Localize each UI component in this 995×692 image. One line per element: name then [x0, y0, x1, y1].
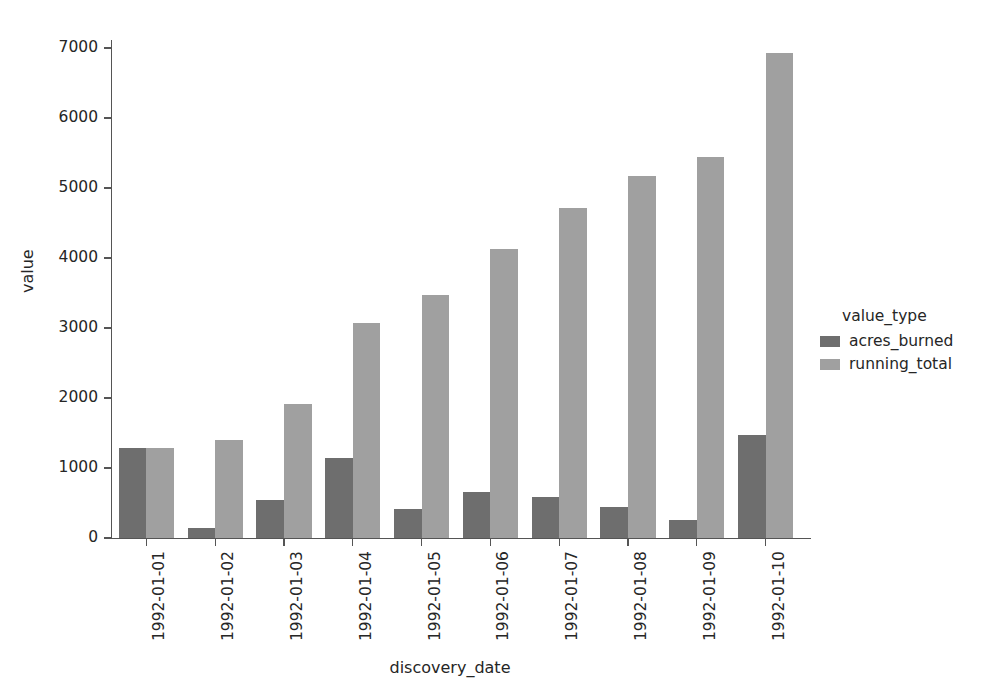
legend-label: running_total — [849, 355, 952, 373]
bar — [738, 435, 766, 538]
legend-label: acres_burned — [849, 332, 953, 350]
bar — [284, 404, 312, 538]
x-tick-label: 1992-01-10 — [772, 551, 788, 641]
y-tick-label: 2000 — [40, 390, 98, 406]
bar — [256, 500, 284, 539]
y-tick-label: 7000 — [40, 40, 98, 56]
x-tick-mark — [559, 539, 560, 546]
x-tick-mark — [215, 539, 216, 546]
y-tick-mark — [104, 327, 111, 328]
bar — [559, 208, 587, 538]
y-tick-mark — [104, 537, 111, 538]
legend-title: value_type — [842, 307, 953, 325]
x-axis-title: discovery_date — [0, 658, 900, 677]
y-tick-label: 5000 — [40, 180, 98, 196]
x-tick-mark — [352, 539, 353, 546]
y-tick-label: 3000 — [40, 320, 98, 336]
x-tick-label: 1992-01-09 — [703, 551, 719, 641]
legend-item[interactable]: running_total — [820, 355, 953, 373]
figure: 01000200030004000500060007000 1992-01-01… — [0, 0, 995, 692]
x-tick-label: 1992-01-02 — [221, 551, 237, 641]
x-tick-mark — [696, 539, 697, 546]
bar — [628, 176, 656, 538]
legend-item[interactable]: acres_burned — [820, 332, 953, 350]
y-tick-label: 6000 — [40, 110, 98, 126]
y-tick-label: 4000 — [40, 250, 98, 266]
x-tick-label: 1992-01-05 — [428, 551, 444, 641]
bar — [600, 507, 628, 539]
y-axis-title: value — [18, 249, 37, 293]
legend-swatch-icon — [820, 359, 840, 370]
x-tick-mark — [490, 539, 491, 546]
y-tick-mark — [104, 47, 111, 48]
x-tick-label: 1992-01-04 — [359, 551, 375, 641]
legend-swatch-icon — [820, 336, 840, 347]
legend: value_type acres_burnedrunning_total — [820, 307, 953, 378]
y-tick-mark — [104, 397, 111, 398]
bar — [532, 497, 560, 538]
bar — [463, 492, 491, 538]
x-tick-label: 1992-01-06 — [496, 551, 512, 641]
plot-area — [112, 48, 800, 538]
y-axis-spine — [111, 40, 112, 539]
x-tick-mark — [627, 539, 628, 546]
x-tick-mark — [765, 539, 766, 546]
x-tick-label: 1992-01-08 — [634, 551, 650, 641]
bar — [353, 323, 381, 538]
bar — [119, 448, 147, 538]
x-tick-label: 1992-01-01 — [152, 551, 168, 641]
bar — [697, 157, 725, 538]
y-tick-label: 1000 — [40, 460, 98, 476]
y-tick-mark — [104, 467, 111, 468]
bar — [215, 440, 243, 538]
x-axis-spine — [111, 538, 811, 539]
bar — [422, 295, 450, 538]
x-tick-mark — [146, 539, 147, 546]
x-tick-label: 1992-01-07 — [565, 551, 581, 641]
x-tick-label: 1992-01-03 — [290, 551, 306, 641]
bar — [669, 520, 697, 538]
bar — [490, 249, 518, 538]
y-tick-mark — [104, 257, 111, 258]
bar — [766, 53, 794, 538]
y-tick-label: 0 — [40, 530, 98, 546]
x-tick-mark — [421, 539, 422, 546]
x-tick-mark — [283, 539, 284, 546]
legend-entries: acres_burnedrunning_total — [820, 332, 953, 373]
y-tick-mark — [104, 117, 111, 118]
y-tick-mark — [104, 187, 111, 188]
bar — [325, 458, 353, 539]
bar — [394, 509, 422, 538]
bar — [188, 528, 216, 539]
bar — [146, 448, 174, 538]
